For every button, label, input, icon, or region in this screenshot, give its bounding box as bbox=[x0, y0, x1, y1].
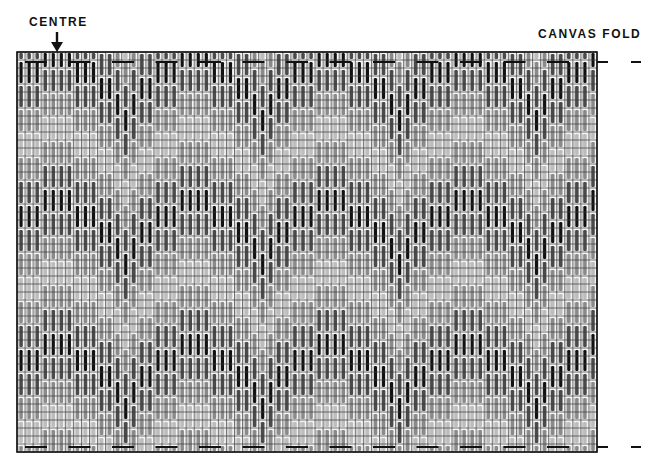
stitch-chart bbox=[0, 0, 659, 468]
